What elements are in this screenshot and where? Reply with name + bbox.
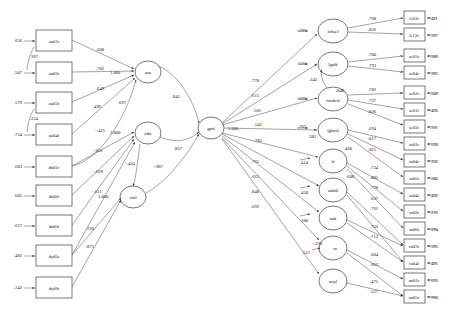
loading-value-au02r: .702 [96, 66, 105, 71]
indicator-label-dn03r: dn03r [49, 224, 60, 229]
sem-diagram-canvas: au01r .656 au02r .507 .367 au03r .579 au… [0, 0, 454, 317]
error-value-so04r-a: .332 [430, 159, 439, 164]
indicator-label-au02r: au02r [49, 71, 60, 76]
gmf-coef-lgstk: .615 [251, 93, 260, 98]
indicator-label-so06r: so06r [409, 227, 420, 232]
loading-value-au04r: .496 [93, 104, 102, 109]
error-value-dn02r: .605 [14, 193, 23, 198]
indicator-label-so01r: so01r [409, 142, 420, 147]
error-value-se01r: .456 [430, 108, 439, 113]
left-loading-paths: .608 .702 .649 .496 .667 -.425 -.651 -.6… [72, 40, 140, 287]
error-value-ru04r: .421 [430, 261, 439, 266]
latent-label-lgstk: lgstk [328, 62, 338, 67]
error-value-ru03r: .595 [430, 244, 439, 249]
loading-path-se03r [348, 104, 403, 125]
error-value-le02r: .411 [430, 16, 439, 21]
loading-value-se04r: .793 [368, 63, 377, 68]
loading-value-dy05r: -.611 [92, 189, 102, 194]
loading-value-dn01r: -.425 [95, 128, 105, 133]
loading-value-se05r: .700 [368, 52, 377, 57]
loading-path-dn03r [72, 139, 134, 225]
extra-coef-871: .871 [86, 244, 95, 249]
gmf-path-fordcsl [222, 98, 317, 125]
indicator-label-le12r: le12r [409, 33, 419, 38]
latent-label-ff: ff [331, 159, 335, 164]
loading-path-dy06r-b [72, 200, 121, 287]
extra-coef-ank: .608 [346, 174, 355, 179]
error-value-se04r: .365 [430, 71, 439, 76]
structural-value-fordcsl: .662 [298, 96, 307, 101]
gmf-coef-anyl: .692 [251, 204, 260, 209]
loading-value-an03r: .756 [370, 224, 379, 229]
loading-path-so05r [348, 137, 403, 177]
loading-value-ay02r: .527 [370, 289, 379, 294]
gmf-coef-lghnsl: .541 [254, 122, 263, 127]
loading-value-dn02r: -.651 [93, 148, 103, 153]
indicator-label-so03r: so03r [409, 210, 420, 215]
error-value-an05r: .960 [430, 295, 439, 300]
loading-value-an02r: .713 [370, 234, 379, 239]
indicator-label-so04r-b: so04r [409, 193, 420, 198]
error-value-so03r: .216 [430, 210, 439, 215]
sem-path-diagram: au01r .656 au02r .507 .367 au03r .579 au… [0, 0, 454, 317]
extra-coef-fordcsl-343: .343 [309, 77, 318, 82]
loading-value-dy06r: .720 [86, 226, 95, 231]
correlation-value-1: .367 [30, 54, 39, 59]
structural-value-stabil: .458 [300, 190, 309, 195]
gmf-coef-fordcsl: .581 [253, 108, 262, 113]
gmf-path-ra [222, 138, 319, 240]
error-value-dy06r: .242 [14, 285, 23, 290]
indicator-label-dn02r: dn02r [49, 194, 60, 199]
extra-coef-ff: .460 [344, 146, 353, 151]
loading-value-le12r: .826 [368, 27, 377, 32]
loading-value-au03r: .649 [96, 86, 105, 91]
loading-value-dn03r: -.629 [93, 169, 103, 174]
residual-arrow-ank [300, 214, 310, 216]
indicator-label-dn01r: dn01r [49, 165, 60, 170]
error-value-so01r: .518 [430, 142, 439, 147]
latent-label-ichsel: ichsel [327, 29, 339, 34]
left-indicator-group: au01r .656 au02r .507 .367 au03r .579 au… [14, 30, 72, 298]
error-value-se02r: .349 [430, 91, 439, 96]
error-value-au03r: .579 [14, 100, 23, 105]
indicator-label-ru03r: ru03r [409, 244, 419, 249]
right-indicator-group: le02r .768 .411 le12r .826 .327 se05r .7… [347, 11, 439, 303]
error-value-le12r: .327 [430, 33, 439, 38]
extra-coef-667: .667 [118, 100, 127, 105]
loading-value-so05r: .811 [368, 147, 377, 152]
indicator-label-ru04r: ru04r [409, 261, 419, 266]
error-value-au01r: .656 [14, 38, 23, 43]
indicator-label-so04r-a: so04r [409, 159, 420, 164]
latent-label-ank: ank [330, 216, 338, 221]
loading-value-ay01r: .475 [370, 279, 379, 284]
loading-value-se03r: .836 [368, 109, 377, 114]
structural-value-ichsel: .397 [298, 28, 307, 33]
gmf-path-lgstk [222, 64, 317, 124]
loading-value-ru04r: .761 [370, 206, 379, 211]
latent-label-adu: adu [145, 131, 153, 136]
extra-coef-fordcsl-848: .848 [336, 88, 345, 93]
indicator-label-an05r: an05r [409, 295, 420, 300]
residual-arrow-stabil [300, 186, 310, 188]
indicator-label-se05r: se05r [409, 54, 419, 59]
extra-coef-ra: -.370 [312, 241, 322, 246]
extra-coef-424: -.424 [125, 161, 135, 166]
extra-coef-907: -.907 [153, 164, 163, 169]
structural-value-ank: .380 [300, 218, 309, 223]
extra-path-667 [72, 80, 136, 166]
error-value-dn03r: .627 [14, 223, 23, 228]
latent-label-vial: vial [129, 195, 137, 200]
latent-label-gmf: gmf [207, 126, 215, 131]
loading-path-dy06r-a [72, 198, 121, 255]
indicator-label-se01r: se01r [409, 108, 419, 113]
loading-value-so06r: .778 [370, 185, 379, 190]
error-value-dy05r: .482 [14, 253, 23, 258]
indicator-label-dy05r: dy05r [49, 254, 60, 259]
indicator-label-so05r: so05r [409, 176, 420, 181]
loading-value-ru03r: .637 [370, 196, 379, 201]
loading-value-se01r: .737 [368, 98, 377, 103]
indicator-label-dy06r: dy06r [49, 286, 60, 291]
gmf-coef-ichsel: .778 [251, 78, 260, 83]
error-value-se03r: .311 [430, 125, 439, 130]
latent-label-fordcsl: fordcsl [326, 98, 340, 103]
